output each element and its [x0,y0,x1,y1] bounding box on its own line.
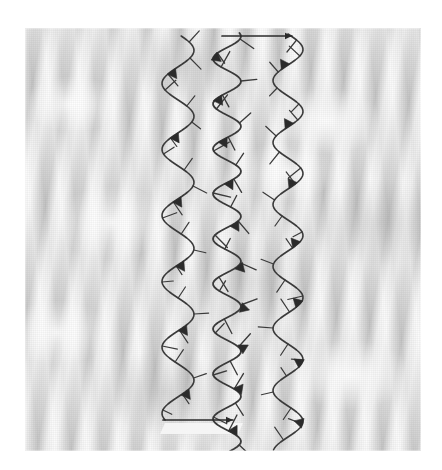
wavy-lines-layer [162,31,304,451]
wavy-line-right [258,34,304,450]
tie-line-bottom-arrowhead-icon [226,417,233,423]
figure-root: Scanned map fragment with hachured wavy … [0,0,442,470]
wavy-line-left-stroke [162,36,194,420]
map-ink-overlay [25,28,421,451]
scanned-map-plate [25,28,421,451]
wavy-line-left-thrust-triangles [167,68,190,399]
wavy-line-left [162,31,209,420]
wavy-line-middle [211,33,257,451]
